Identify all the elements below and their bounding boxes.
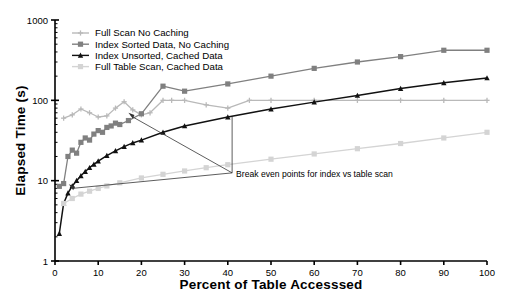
series-group <box>57 48 490 236</box>
series-0 <box>61 98 490 121</box>
y-tick-label: 100 <box>32 95 48 106</box>
breakeven-leader-line <box>132 117 232 173</box>
breakeven-leader-line <box>73 173 232 188</box>
legend-item-1: Index Sorted Data, No Caching <box>72 39 229 50</box>
y-axis-title: Elapsed Time (s) <box>10 20 32 261</box>
series-2 <box>57 75 490 236</box>
legend-label: Full Scan No Caching <box>95 27 189 38</box>
y-tick-label: 1 <box>43 256 48 267</box>
annotation-group: Break even points for index vs table sca… <box>236 169 393 179</box>
chart-root: Elapsed Time (s) Percent of Table Access… <box>0 0 506 303</box>
chart-canvas: 11010010000102030405060708090100 Full Sc… <box>0 0 506 303</box>
legend-item-3: Full Table Scan, Cached Data <box>72 61 224 72</box>
legend-item-2: Index Unsorted, Cached Data <box>72 50 223 61</box>
breakeven-annotation: Break even points for index vs table sca… <box>236 169 393 179</box>
legend-label: Index Unsorted, Cached Data <box>95 50 223 61</box>
x-axis-title: Percent of Table Accesssed <box>55 277 487 292</box>
legend-item-0: Full Scan No Caching <box>72 27 189 38</box>
callout-group <box>69 113 232 191</box>
legend-label: Full Table Scan, Cached Data <box>95 61 224 72</box>
y-tick-label: 10 <box>37 175 48 186</box>
legend-group: Full Scan No CachingIndex Sorted Data, N… <box>72 27 229 72</box>
legend-label: Index Sorted Data, No Caching <box>95 39 229 50</box>
